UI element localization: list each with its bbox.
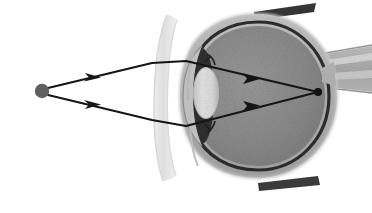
point-source bbox=[35, 84, 49, 98]
eye-optics-figure: Object point source Converging correctiv… bbox=[0, 0, 372, 213]
focal-point bbox=[314, 88, 322, 96]
diagram-canvas: Object point source Converging correctiv… bbox=[0, 0, 372, 213]
